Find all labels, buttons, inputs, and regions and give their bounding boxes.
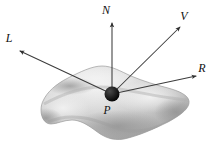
surface-shading (30, 62, 198, 144)
surface-point-dot (105, 87, 120, 102)
surface-point-label: P (102, 104, 110, 116)
vector-label-light: L (5, 31, 13, 45)
diagram-canvas: N V L R P (0, 0, 220, 149)
surface-patch (30, 62, 198, 144)
illumination-vectors-figure: N V L R P (0, 0, 220, 149)
vector-label-reflection: R (197, 61, 206, 75)
surface-shadow-right (154, 98, 198, 126)
vector-label-view: V (180, 9, 189, 23)
vector-label-normal: N (101, 3, 111, 17)
surface-shadow-lower (74, 110, 162, 142)
